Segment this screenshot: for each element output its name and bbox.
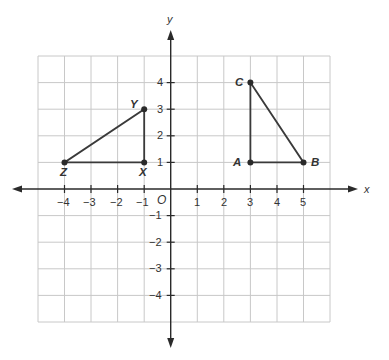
point-x — [141, 159, 147, 165]
x-tick-label: −2 — [110, 197, 123, 208]
x-tick-label: 5 — [300, 197, 306, 208]
vertex-label-b: B — [311, 157, 319, 169]
point-a — [247, 159, 253, 165]
y-tick-label: −1 — [149, 210, 162, 221]
vertex-label-c: C — [235, 77, 243, 89]
x-tick-label: 1 — [194, 197, 200, 208]
x-tick-label: −1 — [136, 197, 149, 208]
y-axis-up-arrow-icon — [167, 30, 174, 40]
x-tick-label: 3 — [247, 197, 253, 208]
plane-graphic — [0, 0, 389, 360]
point-z — [62, 159, 68, 165]
y-tick-label: 1 — [157, 157, 163, 168]
point-b — [301, 159, 307, 165]
y-tick-label: −4 — [149, 290, 162, 301]
point-c — [247, 80, 253, 86]
x-axis-label: x — [364, 184, 370, 195]
point-y — [141, 106, 147, 112]
coordinate-plane: y x O −4 −3 −2 −1 1 2 3 4 5 4 3 2 1 −1 −… — [0, 0, 389, 360]
vertex-label-z: Z — [60, 167, 67, 179]
x-axis-left-arrow-icon — [12, 186, 22, 193]
x-tick-label: −3 — [83, 197, 96, 208]
y-tick-label: −2 — [149, 237, 162, 248]
y-tick-label: 2 — [157, 130, 163, 141]
vertex-label-y: Y — [130, 99, 138, 111]
vertex-label-a: A — [233, 157, 241, 169]
x-axis-right-arrow-icon — [348, 186, 358, 193]
y-tick-label: 3 — [157, 104, 163, 115]
x-tick-label: 4 — [274, 197, 280, 208]
y-tick-label: −3 — [149, 263, 162, 274]
x-tick-label: −4 — [57, 197, 70, 208]
y-axis-down-arrow-icon — [167, 338, 174, 348]
origin-label: O — [157, 194, 166, 206]
x-tick-label: 2 — [221, 197, 227, 208]
y-axis-label: y — [167, 14, 173, 25]
vertex-label-x: X — [139, 167, 147, 179]
y-tick-label: 4 — [157, 77, 163, 88]
